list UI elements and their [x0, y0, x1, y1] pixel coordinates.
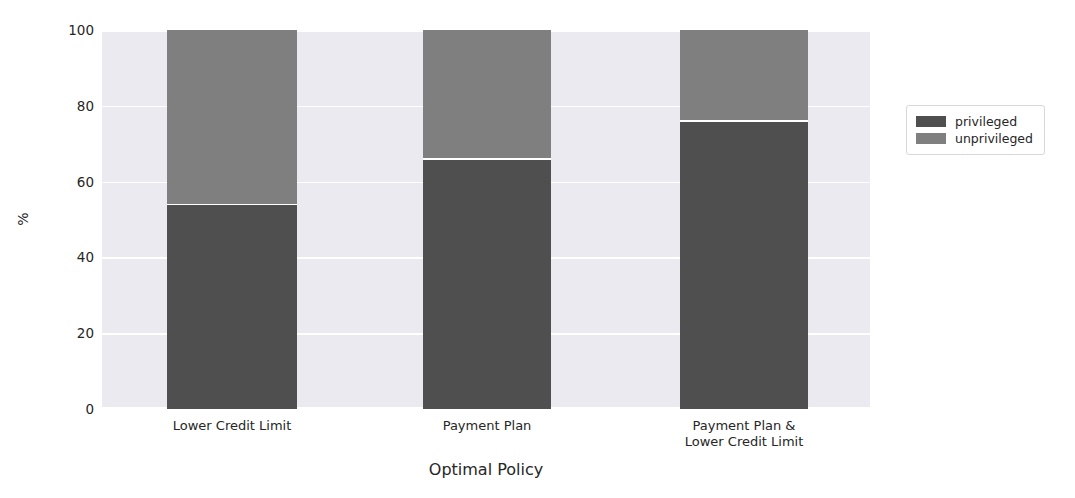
- bar-segment-privileged[interactable]: [167, 204, 297, 409]
- bar-payment-plan[interactable]: [423, 30, 551, 409]
- legend: privileged unprivileged: [906, 105, 1045, 155]
- y-axis-label: %: [15, 212, 31, 225]
- bar-segment-divider: [680, 120, 808, 122]
- legend-entry-privileged[interactable]: privileged: [916, 113, 1033, 130]
- legend-entry-unprivileged[interactable]: unprivileged: [916, 130, 1033, 147]
- bar-lower-credit-limit[interactable]: [167, 30, 297, 409]
- x-tick-label-lower-credit-limit: Lower Credit Limit: [173, 418, 292, 434]
- x-tick-label-payment-plan: Payment Plan: [443, 418, 532, 434]
- y-axis-ticks: 100 80 60 40 20 0: [22, 30, 94, 409]
- y-tick-label: 20: [30, 325, 94, 341]
- bar-segment-divider: [167, 204, 297, 206]
- y-tick-label: 60: [30, 174, 94, 190]
- x-axis-label: Optimal Policy: [429, 460, 543, 479]
- x-tick-label-payment-plan-and-lower-credit-limit: Payment Plan & Lower Credit Limit: [685, 418, 804, 450]
- bar-segment-unprivileged[interactable]: [680, 30, 808, 121]
- plot-area: [102, 30, 870, 409]
- bar-segment-privileged[interactable]: [680, 121, 808, 409]
- legend-label: privileged: [955, 114, 1017, 129]
- legend-swatch-privileged: [916, 116, 946, 127]
- y-tick-label: 40: [30, 249, 94, 265]
- y-tick-label: 80: [30, 98, 94, 114]
- y-tick-label: 100: [30, 22, 94, 38]
- bar-payment-plan-and-lower-credit-limit[interactable]: [680, 30, 808, 409]
- legend-swatch-unprivileged: [916, 133, 946, 144]
- bar-segment-unprivileged[interactable]: [423, 30, 551, 159]
- bar-segment-unprivileged[interactable]: [167, 30, 297, 204]
- bar-segment-divider: [423, 158, 551, 160]
- bar-chart-figure: 100 80 60 40 20 0 % Lower Credit Limit P…: [0, 0, 1075, 498]
- legend-label: unprivileged: [955, 131, 1033, 146]
- y-tick-label: 0: [30, 401, 94, 417]
- bar-segment-privileged[interactable]: [423, 159, 551, 409]
